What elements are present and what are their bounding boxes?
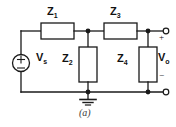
junction-dot-node-b-bottom [146,90,151,95]
output-plus-sign: + [159,33,164,42]
output-voltage-label: Vo [158,52,170,65]
junction-dot-node-b-top [146,29,151,34]
junction-dot-node-a-bottom [86,90,91,95]
impedance-z4-body [139,47,157,82]
output-terminal-bottom [163,89,169,95]
circuit-figure: Z1 Z3 Z2 Z4 Vs Vo + − (a) [0,0,176,127]
impedance-z3-body [104,23,137,39]
impedance-z1-body [41,23,74,39]
impedance-z3-label: Z3 [110,6,121,19]
junction-dot-node-a-top [86,29,91,34]
impedance-z2-body [79,47,97,82]
impedance-z4-label: Z4 [117,53,128,66]
output-minus-sign: − [159,71,164,80]
impedance-z2-label: Z2 [62,53,73,66]
impedance-z1-label: Z1 [47,6,58,19]
figure-caption: (a) [79,108,91,118]
source-voltage-label: Vs [36,52,47,65]
